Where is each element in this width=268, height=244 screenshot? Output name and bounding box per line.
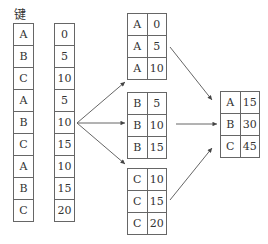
arrow-to-group-c	[77, 123, 125, 164]
arrow-c-to-result	[170, 148, 212, 200]
arrow-to-group-a	[77, 82, 125, 123]
flow-arrows	[0, 0, 268, 244]
arrow-a-to-result	[170, 47, 212, 100]
